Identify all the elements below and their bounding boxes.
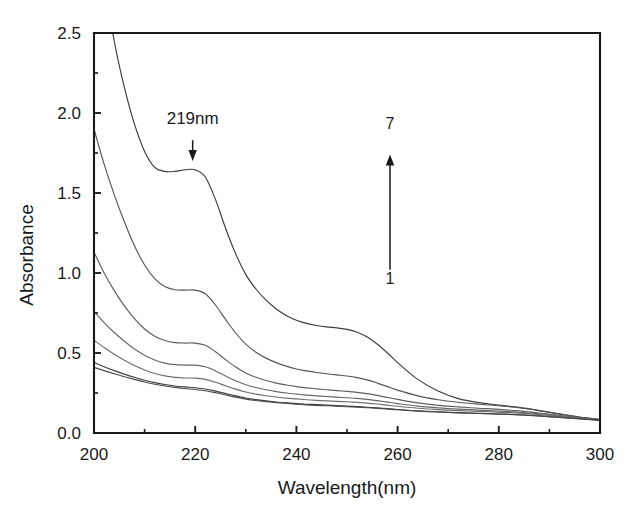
y-tick-label-1.5: 1.5: [57, 184, 81, 203]
x-tick-label-280: 280: [485, 445, 513, 464]
y-tick-label-2.0: 2.0: [57, 104, 81, 123]
x-tick-label-300: 300: [586, 445, 614, 464]
y-axis-label: Absorbance: [16, 204, 37, 305]
absorbance-spectrum-chart: 2002202402602803000.00.51.01.52.02.5 Wav…: [0, 0, 632, 510]
peak-wavelength-label: 219nm: [167, 109, 219, 128]
x-tick-label-240: 240: [282, 445, 310, 464]
x-axis-label: Wavelength(nm): [278, 477, 417, 498]
y-tick-label-0.5: 0.5: [57, 344, 81, 363]
x-tick-label-200: 200: [80, 445, 108, 464]
series-direction-bottom-label: 1: [386, 270, 395, 287]
x-tick-label-220: 220: [181, 445, 209, 464]
x-tick-label-260: 260: [383, 445, 411, 464]
series-direction-top-label: 7: [386, 115, 395, 132]
y-tick-label-0.0: 0.0: [57, 424, 81, 443]
y-tick-label-1.0: 1.0: [57, 264, 81, 283]
y-tick-label-2.5: 2.5: [57, 24, 81, 43]
